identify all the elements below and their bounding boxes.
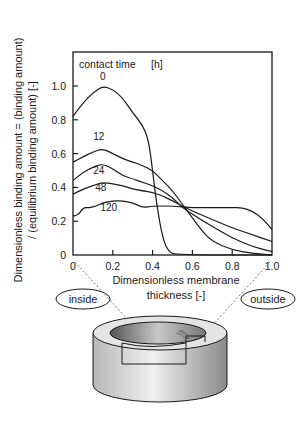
x-tick-label: 0 — [70, 260, 76, 272]
svg-text:/ (equilibrium binding amount): / (equilibrium binding amount) [-] — [26, 81, 38, 239]
x-tick-label: 0.2 — [105, 260, 120, 272]
curve-label: 12 — [93, 131, 105, 142]
plot-frame — [73, 52, 272, 255]
x-axis-label-line2: thickness [-] — [147, 289, 206, 301]
figure: Dimensionless binding amount = (binding … — [0, 0, 307, 421]
membrane-cylinder-illustration — [93, 316, 227, 402]
curve-label: 48 — [95, 182, 107, 193]
x-tick-label: 0.4 — [145, 260, 160, 272]
curve-label: 120 — [100, 202, 117, 213]
x-axis-label-line1: Dimensionless membrane — [112, 274, 239, 286]
curve-label: 24 — [93, 165, 105, 176]
outside-label: outside — [241, 289, 295, 309]
svg-text:inside: inside — [69, 293, 98, 305]
y-tick-label: 1.0 — [51, 80, 66, 92]
y-axis-label: Dimensionless binding amount = (binding … — [12, 38, 38, 283]
legend-unit: [h] — [151, 58, 163, 70]
y-ticks: 00.20.40.60.81.0 — [51, 80, 78, 261]
y-tick-label: 0.2 — [51, 215, 66, 227]
curves: 0122448120 — [73, 71, 272, 255]
svg-text:Dimensionless binding amount =: Dimensionless binding amount = (binding … — [12, 38, 24, 283]
y-tick-label: 0 — [60, 249, 66, 261]
x-tick-label: 1.0 — [265, 260, 280, 272]
x-tick-label: 0.6 — [185, 260, 200, 272]
legend-title: contact time — [79, 58, 136, 70]
inside-label: inside — [56, 289, 110, 309]
curve-label: 0 — [100, 71, 106, 82]
x-tick-label: 0.8 — [225, 260, 240, 272]
svg-text:outside: outside — [250, 293, 285, 305]
y-tick-label: 0.6 — [51, 148, 66, 160]
y-tick-label: 0.8 — [51, 114, 66, 126]
y-tick-label: 0.4 — [51, 181, 66, 193]
